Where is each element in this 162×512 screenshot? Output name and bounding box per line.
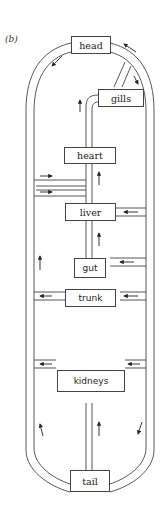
heart-box: heart <box>64 147 116 164</box>
head-gills-vessel <box>114 62 131 87</box>
liver-box: liver <box>65 203 116 221</box>
head-box: head <box>71 36 111 54</box>
trunk-box: trunk <box>65 289 116 307</box>
tail-box: tail <box>70 470 110 492</box>
circulation-diagram <box>0 0 162 512</box>
gut-box: gut <box>74 258 106 278</box>
kidneys-box: kidneys <box>57 370 125 392</box>
gills-box: gills <box>98 89 144 107</box>
figure-label: (b) <box>5 34 18 44</box>
gills-heart-vessel <box>86 95 98 148</box>
